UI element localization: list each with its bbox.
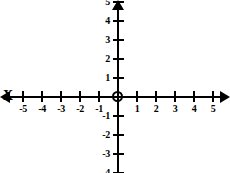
x-tick-label-neg2: -2 (71, 104, 89, 114)
x-tick-1 (136, 91, 138, 102)
x-tick-neg4 (41, 91, 43, 102)
y-tick-neg4 (113, 172, 124, 173)
x-tick-neg3 (60, 91, 62, 102)
x-axis-right-arrowhead (220, 91, 230, 103)
y-tick-4 (113, 20, 124, 22)
x-tick-label-5: 5 (204, 104, 222, 114)
y-tick-label-4: 4 (94, 16, 110, 26)
y-tick-label-neg2: -2 (94, 130, 110, 140)
x-tick-label-2: 2 (147, 104, 165, 114)
x-tick-2 (155, 91, 157, 102)
y-tick-label-1: 1 (94, 73, 110, 83)
y-tick-label-3: 3 (94, 35, 110, 45)
x-axis-label: X (3, 89, 13, 103)
y-tick-neg1 (113, 115, 124, 117)
y-tick-label-neg3: -3 (94, 149, 110, 159)
x-tick-label-neg3: -3 (52, 104, 70, 114)
y-tick-label-neg4: -4 (94, 168, 110, 173)
y-tick-label-neg1: -1 (94, 111, 110, 121)
x-tick-label-neg5: -5 (14, 104, 32, 114)
x-tick-neg5 (22, 91, 24, 102)
x-tick-label-neg4: -4 (33, 104, 51, 114)
coordinate-plane-figure: -5-4-3-2-112345 54321-1-2-3-4 X (0, 0, 230, 173)
y-tick-neg3 (113, 153, 124, 155)
y-tick-neg2 (113, 134, 124, 136)
y-tick-5 (113, 1, 124, 3)
y-tick-2 (113, 58, 124, 60)
x-tick-label-4: 4 (185, 104, 203, 114)
y-tick-label-2: 2 (94, 54, 110, 64)
x-tick-label-3: 3 (166, 104, 184, 114)
x-tick-4 (193, 91, 195, 102)
origin-marker (112, 91, 123, 102)
y-axis-line (117, 6, 119, 173)
x-tick-neg2 (79, 91, 81, 102)
x-tick-3 (174, 91, 176, 102)
y-tick-3 (113, 39, 124, 41)
x-tick-label-1: 1 (128, 104, 146, 114)
x-tick-neg1 (98, 91, 100, 102)
y-tick-1 (113, 77, 124, 79)
x-tick-5 (212, 91, 214, 102)
y-tick-label-5: 5 (94, 0, 110, 7)
